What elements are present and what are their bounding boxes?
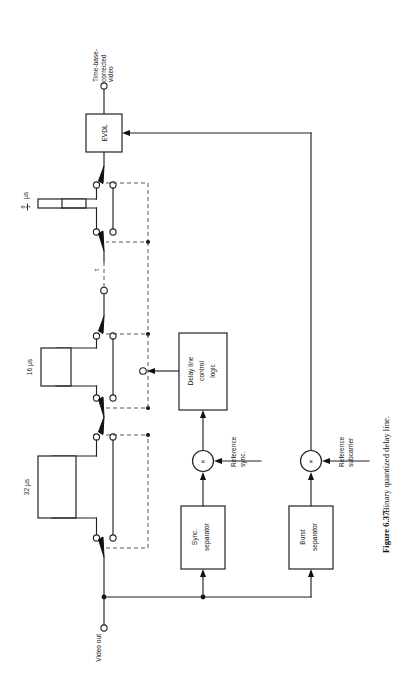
terminal-circle-video-out: [101, 625, 107, 631]
switch-contact-3b-right: [110, 395, 116, 401]
terminal-time-base-corrected-video: Time-base- corrected video: [92, 49, 114, 114]
control-logic-label-line3: logic: [209, 364, 217, 378]
arrowhead-into-sync-multiplier: [200, 472, 206, 480]
switch-contact-3a-left: [93, 333, 99, 339]
burst-separator-label-line1: Burst: [299, 529, 306, 545]
switch-blade-3a: [99, 316, 105, 334]
label-reference-sync-line1: Reference: [230, 436, 237, 467]
figure-page: Time-base- corrected video EVDL 1: [0, 0, 409, 690]
block-evdl: EVDL: [86, 114, 122, 152]
delay-section-tau: τ: [93, 251, 107, 316]
switch-contact-4b-right: [110, 535, 116, 541]
terminal-label-tbc-video-line1: Time-base-: [92, 49, 99, 82]
arrowhead-control-input: [147, 368, 155, 374]
dashed-control-link-4-bottom: [106, 435, 148, 548]
arrowhead-into-control-logic: [200, 410, 206, 418]
switch-blade-4b: [99, 537, 105, 557]
switch-contact-1b-right: [110, 229, 116, 235]
arrowhead-into-subcarrier-multiplier: [308, 472, 314, 480]
switch-blade-1b: [99, 231, 105, 251]
figure-caption: Figure 6.37 Binary quantized delay line.: [381, 416, 391, 553]
sync-chain: Sync. separator × Reference sync. Delay …: [179, 333, 261, 597]
binary-quantized-delay-line-diagram: Time-base- corrected video EVDL 1: [0, 0, 409, 690]
figure-number: Figure 6.37: [381, 511, 391, 553]
switch-blade-3b: [99, 397, 105, 417]
terminal-circle-tbc-video: [101, 83, 107, 89]
burst-separator-label-line2: separator: [311, 522, 319, 551]
delay-section-32-us: 32 µs: [23, 417, 116, 557]
label-reference-subcarrier-line2: subcarrier: [347, 437, 354, 467]
arrowhead-reference-sync: [214, 458, 222, 464]
arrowhead-reference-subcarrier: [322, 458, 330, 464]
burst-chain: Burst separator × Reference subcarrier: [289, 436, 369, 597]
arrowhead-into-burst-separator: [308, 569, 314, 577]
delay-section-eighth-us: 1 8 µs: [20, 166, 116, 251]
subcarrier-multiplier-symbol: ×: [309, 458, 313, 465]
switch-contact-4a-left: [93, 434, 99, 440]
figure-caption-text: Binary quantized delay line.: [381, 416, 391, 513]
delay-element-32-us: [38, 456, 76, 518]
arrowhead-into-sync-separator: [200, 569, 206, 577]
sync-multiplier-symbol: ×: [201, 458, 205, 465]
control-logic-to-switches: [147, 368, 183, 374]
sync-separator-label-line1: Sync.: [191, 529, 199, 546]
label-reference-subcarrier-line1: Reference: [338, 436, 345, 467]
label-tau: τ: [93, 268, 100, 271]
switch-blade-4a: [99, 417, 105, 435]
label-delay-32-us: 32 µs: [23, 478, 31, 495]
terminal-label-tbc-video-line3: video: [107, 66, 114, 82]
control-input-terminal: [140, 368, 147, 375]
switch-contact-1a-left: [93, 182, 99, 188]
delay-element-16-us: [41, 348, 71, 386]
terminal-label-tbc-video-line2: corrected: [100, 54, 107, 82]
evdl-label: EVDL: [101, 124, 108, 142]
label-reference-sync-line2: sync.: [239, 451, 247, 467]
delay-section-16-us: 16 µs: [26, 316, 116, 417]
control-logic-label-line2: control: [198, 361, 205, 381]
sync-separator-label-line2: separator: [203, 522, 211, 551]
arrowhead-into-evdl: [122, 130, 130, 136]
terminal-label-video-out: Video out: [95, 634, 102, 662]
label-delay-16-us: 16 µs: [26, 358, 34, 375]
tau-contact: [101, 287, 108, 294]
label-delay-eighth-us: 1 8 µs: [20, 191, 31, 210]
control-logic-label-line1: Delay line: [187, 356, 195, 385]
switch-blade-1a: [99, 166, 105, 184]
fraction-denominator-eighth: 8: [20, 205, 26, 208]
unit-label-eighth-us: µs: [22, 191, 30, 199]
